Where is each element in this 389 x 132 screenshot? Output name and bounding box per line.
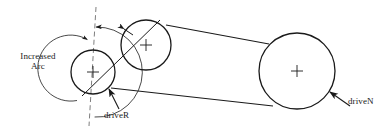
dashed-centerline [89,7,96,126]
outer-arc-path [95,27,143,117]
increased-arc-label: Increased Arc [9,51,67,71]
pulley-idler-center-mark [140,39,152,51]
increased-arc-label-line1: Increased [9,51,67,61]
driven-label: driveN [348,96,374,106]
pulley-driver-center-mark [87,66,99,78]
driven-leader-line [330,92,350,106]
belt-upper [166,25,269,44]
driver-label: driveR [104,110,129,120]
pulley-driven-center-mark [291,65,303,77]
belt-wrap-left [82,20,160,96]
belt-drive-diagram: Increased Arc driveR driveN [0,0,389,132]
driver-leader-line [109,89,119,109]
increased-arc-label-line2: Arc [9,61,67,71]
